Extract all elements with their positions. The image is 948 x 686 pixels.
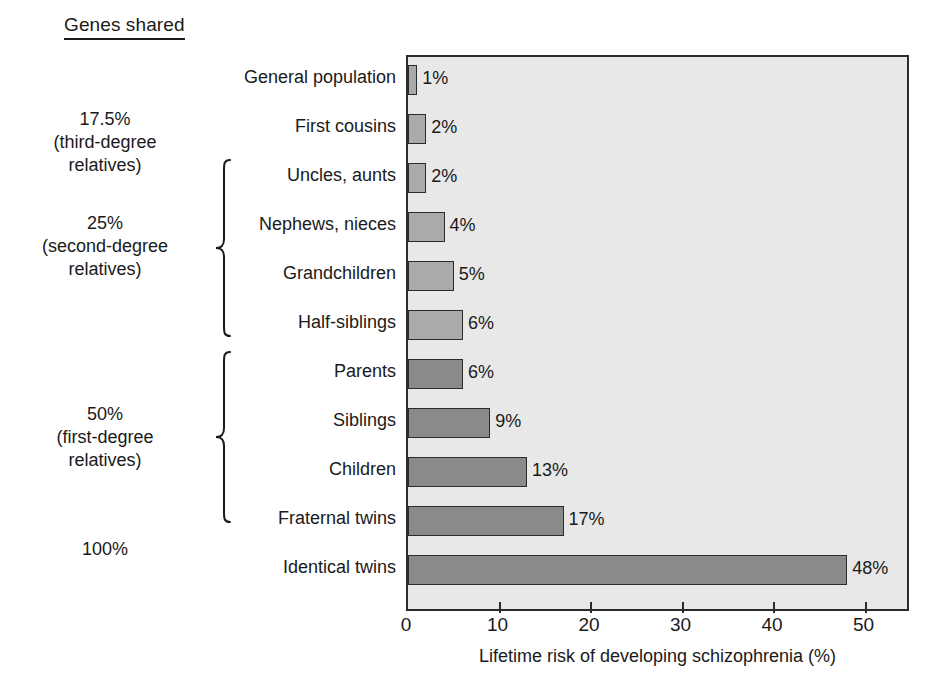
category-label-3: Uncles, aunts	[96, 165, 396, 186]
bar-6	[408, 310, 463, 340]
bar-4	[408, 212, 445, 242]
chart-plot-area	[406, 55, 909, 611]
bar-value-label-2: 2%	[431, 117, 457, 137]
bar-9	[408, 457, 527, 487]
bar-value-label-1: 1%	[422, 68, 448, 88]
category-label-5: Grandchildren	[96, 263, 396, 284]
x-axis-tick-label-30: 30	[661, 614, 701, 636]
x-axis-tick-30	[682, 602, 684, 613]
bar-value-label-4: 4%	[450, 215, 476, 235]
bar-value-label-9: 13%	[532, 460, 568, 480]
bar-8	[408, 408, 490, 438]
bar-1	[408, 65, 417, 95]
page-title: Genes shared	[64, 14, 185, 40]
category-label-8: Siblings	[96, 410, 396, 431]
x-axis-tick-label-20: 20	[569, 614, 609, 636]
x-axis-tick-label-10: 10	[478, 614, 518, 636]
bar-value-label-10: 17%	[569, 509, 605, 529]
bar-10	[408, 506, 564, 536]
category-label-6: Half-siblings	[96, 312, 396, 333]
category-label-11: Identical twins	[96, 557, 396, 578]
x-axis-tick-20	[590, 602, 592, 613]
x-axis-tick-50	[865, 602, 867, 613]
bar-3	[408, 163, 426, 193]
category-label-1: General population	[96, 67, 396, 88]
category-label-2: First cousins	[96, 116, 396, 137]
bar-value-label-7: 6%	[468, 362, 494, 382]
bar-value-label-3: 2%	[431, 166, 457, 186]
bar-5	[408, 261, 454, 291]
bar-2	[408, 114, 426, 144]
bar-11	[408, 555, 847, 585]
category-label-10: Fraternal twins	[96, 508, 396, 529]
category-label-9: Children	[96, 459, 396, 480]
genes-shared-label-line: (second-degree	[0, 235, 210, 258]
x-axis-tick-40	[773, 602, 775, 613]
bar-value-label-6: 6%	[468, 313, 494, 333]
x-axis-title: Lifetime risk of developing schizophreni…	[406, 646, 909, 667]
bar-value-label-11: 48%	[852, 558, 888, 578]
x-axis-tick-label-40: 40	[752, 614, 792, 636]
bar-value-label-5: 5%	[459, 264, 485, 284]
bar-value-label-8: 9%	[495, 411, 521, 431]
bar-7	[408, 359, 463, 389]
x-axis-tick-label-0: 0	[386, 614, 426, 636]
category-label-7: Parents	[96, 361, 396, 382]
x-axis-tick-10	[499, 602, 501, 613]
category-label-4: Nephews, nieces	[96, 214, 396, 235]
x-axis-tick-label-50: 50	[844, 614, 884, 636]
